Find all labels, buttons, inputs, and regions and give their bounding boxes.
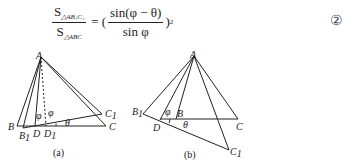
line-ad1-dashed: [41, 57, 46, 126]
caption-a: (a): [53, 147, 64, 159]
line-ac: [194, 56, 238, 119]
label-phi-1: φ: [36, 110, 42, 121]
label-c: C: [109, 121, 116, 132]
figure-b: [143, 56, 238, 150]
label-d1: D1: [43, 128, 56, 141]
label-d: D: [32, 128, 41, 139]
label-a: A: [35, 50, 43, 61]
label-b: B: [8, 121, 14, 132]
label-c1: C1: [230, 146, 242, 159]
label-d: D: [152, 122, 161, 133]
label-b1: B1: [19, 130, 30, 143]
figure-a: [17, 57, 106, 128]
theta-arc-b: [169, 119, 170, 123]
label-phi-2: φ: [48, 107, 54, 118]
label-b: B: [177, 108, 183, 119]
label-theta: θ: [183, 119, 188, 130]
geometry-figures: A B B1 D D1 C C1 φ φ θ (a) A B1 D B C C1…: [0, 0, 360, 167]
line-ac1: [194, 56, 229, 150]
caption-b: (b): [184, 149, 196, 161]
label-a: A: [189, 49, 197, 60]
line-ac1: [41, 57, 102, 114]
label-c: C: [236, 121, 243, 132]
label-theta: θ: [65, 117, 70, 128]
label-c1: C1: [105, 108, 117, 121]
label-b1: B1: [132, 106, 143, 119]
label-phi: φ: [165, 106, 171, 117]
